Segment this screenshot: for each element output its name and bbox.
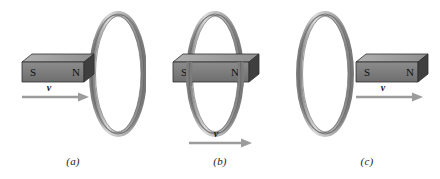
ring-a: [91, 14, 146, 134]
velocity-label-c: v: [381, 82, 386, 93]
caption-a: (a): [0, 155, 146, 167]
magnet-b-north-label: N: [231, 66, 239, 78]
ring-c: [298, 14, 353, 134]
panel-a-drawing: S N v: [0, 0, 146, 150]
caption-c: (c): [294, 155, 440, 167]
magnet-a-south-label: S: [30, 66, 36, 78]
magnet-a: S N: [22, 54, 94, 82]
panel-c: S N v (c): [294, 0, 440, 179]
panel-c-drawing: S N v: [294, 0, 440, 150]
magnet-c-south-label: S: [364, 66, 370, 78]
velocity-arrow-a: v: [22, 82, 89, 102]
velocity-label-b: v: [214, 128, 219, 139]
panel-b-drawing: S N v: [147, 0, 293, 150]
velocity-arrow-c: v: [356, 82, 423, 102]
caption-b: (b): [147, 155, 293, 167]
magnet-c: S N: [356, 54, 428, 82]
panel-b: S N v (b): [147, 0, 293, 179]
magnet-a-north-label: N: [72, 66, 80, 78]
velocity-label-a: v: [47, 82, 52, 93]
magnet-c-north-label: N: [406, 66, 414, 78]
physics-figure: S N v (a): [0, 0, 440, 179]
panel-a: S N v (a): [0, 0, 146, 179]
magnet-b: S N: [173, 54, 259, 82]
